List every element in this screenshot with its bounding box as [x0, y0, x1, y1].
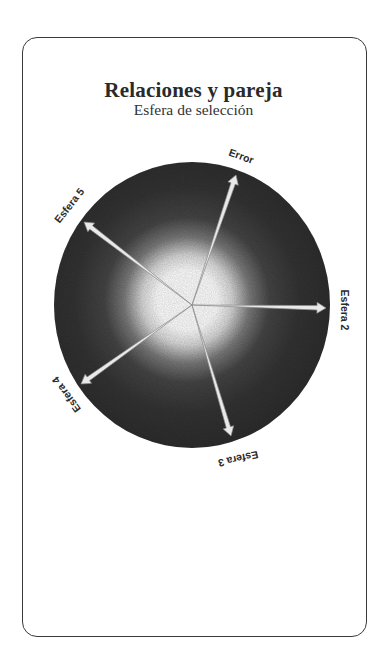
label-error: Error: [227, 146, 255, 166]
selection-sphere-diagram: ErrorEsfera 2Esfera 3Esfera 4Esfera 5: [0, 0, 387, 663]
label-esfera-5: Esfera 5: [52, 185, 87, 225]
label-esfera-2: Esfera 2: [339, 290, 351, 331]
label-esfera-3: Esfera 3: [217, 449, 260, 470]
